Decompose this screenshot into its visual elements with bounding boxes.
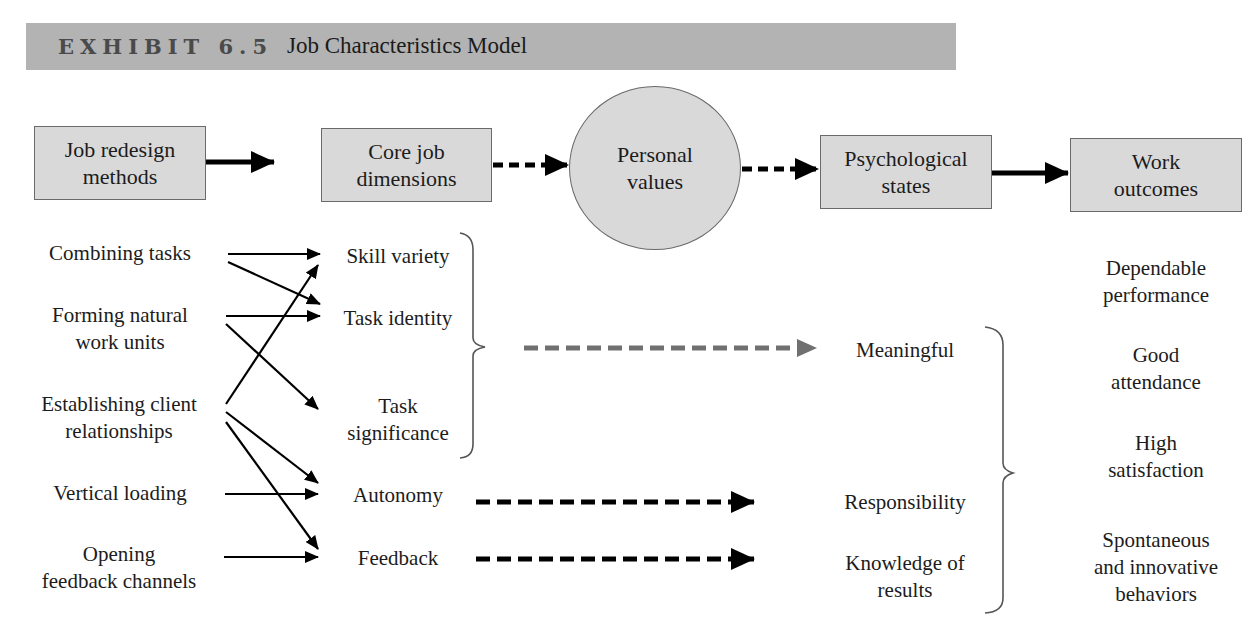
outcome-label: behaviors — [1060, 581, 1252, 608]
dimension-task-identity: Task identity — [328, 305, 468, 332]
state-label: Knowledge of — [830, 550, 980, 577]
state-knowledge-of-results: Knowledge of results — [830, 550, 980, 604]
dimension-autonomy: Autonomy — [328, 482, 468, 509]
outcome-label: Dependable — [1070, 255, 1242, 282]
method-label: Forming natural — [20, 302, 220, 329]
method-vertical-loading: Vertical loading — [20, 480, 220, 507]
state-meaningful: Meaningful — [830, 337, 980, 364]
method-label: work units — [20, 329, 220, 356]
outcome-label: attendance — [1070, 369, 1242, 396]
outcome-spontaneous-innovative-behaviors: Spontaneous and innovative behaviors — [1060, 527, 1252, 608]
node-label: outcomes — [1114, 175, 1198, 202]
state-label: results — [830, 577, 980, 604]
dimension-label: Task identity — [328, 305, 468, 332]
psychological-states-box: Psychologicalstates — [820, 135, 992, 209]
outcome-label: and innovative — [1060, 554, 1252, 581]
node-label: values — [617, 168, 693, 195]
node-label: Core job — [356, 138, 456, 165]
node-label: Job redesign — [65, 136, 176, 163]
dimension-label: Autonomy — [328, 482, 468, 509]
state-label: Responsibility — [830, 489, 980, 516]
core-job-dimensions-box: Core jobdimensions — [321, 128, 492, 202]
dimension-label: Task — [328, 393, 468, 420]
method-label: Establishing client — [12, 391, 226, 418]
method-label: Combining tasks — [20, 240, 220, 267]
dimension-feedback: Feedback — [328, 545, 468, 572]
states-brace — [985, 327, 1013, 613]
outcome-label: Spontaneous — [1060, 527, 1252, 554]
personal-values-ellipse: Personalvalues — [569, 86, 741, 250]
outcome-good-attendance: Good attendance — [1070, 342, 1242, 396]
method-label: feedback channels — [12, 568, 226, 595]
work-outcomes-box: Workoutcomes — [1070, 138, 1242, 212]
method-combining-tasks: Combining tasks — [20, 240, 220, 267]
dimension-label: significance — [328, 420, 468, 447]
node-label: Personal — [617, 141, 693, 168]
node-label: Psychological — [844, 145, 967, 172]
outcome-dependable-performance: Dependable performance — [1070, 255, 1242, 309]
outcome-high-satisfaction: High satisfaction — [1070, 430, 1242, 484]
job-redesign-box: Job redesignmethods — [34, 126, 206, 200]
method-dimension-arrows — [224, 254, 320, 557]
method-label: Opening — [12, 541, 226, 568]
node-label: states — [844, 172, 967, 199]
outcome-label: Good — [1070, 342, 1242, 369]
dimension-task-significance: Task significance — [328, 393, 468, 447]
method-establishing-client-relationships: Establishing client relationships — [12, 391, 226, 445]
method-label: Vertical loading — [20, 480, 220, 507]
outcome-label: satisfaction — [1070, 457, 1242, 484]
outcome-label: performance — [1070, 282, 1242, 309]
state-label: Meaningful — [830, 337, 980, 364]
dimension-label: Feedback — [328, 545, 468, 572]
node-label: Work — [1114, 148, 1198, 175]
method-label: relationships — [12, 418, 226, 445]
dimension-skill-variety: Skill variety — [328, 243, 468, 270]
state-responsibility: Responsibility — [830, 489, 980, 516]
method-forming-natural-work-units: Forming natural work units — [20, 302, 220, 356]
node-label: dimensions — [356, 165, 456, 192]
node-label: methods — [65, 163, 176, 190]
outcome-label: High — [1070, 430, 1242, 457]
method-opening-feedback-channels: Opening feedback channels — [12, 541, 226, 595]
dimension-label: Skill variety — [328, 243, 468, 270]
